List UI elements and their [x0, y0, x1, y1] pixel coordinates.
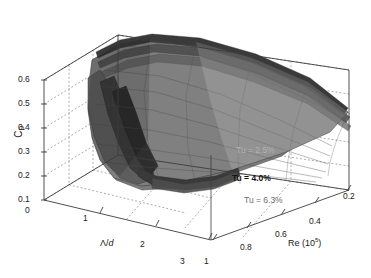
- y-tick-1: 0.8: [240, 243, 252, 252]
- annotation-tu-4-0: Tu = 4.0%: [232, 174, 271, 183]
- z-tick-origin: 0: [25, 206, 30, 215]
- annotation-tu-2-5: Tu = 2.5%: [236, 146, 275, 155]
- z-tick-4: 0.2: [18, 171, 30, 180]
- y-tick-4: 0.2: [343, 192, 355, 201]
- y-tick-2: 0.6: [275, 230, 287, 239]
- z-tick-2: 0.4: [18, 123, 30, 132]
- axis-label-lambda-ital: d: [109, 238, 114, 248]
- annotation-tu-6-3: Tu = 6.3%: [244, 196, 283, 205]
- axis-label-re-tail: ): [318, 238, 321, 248]
- surface-stack: [88, 34, 351, 193]
- z-tick-5: 0.1: [18, 195, 30, 204]
- x-tick-0: 1: [83, 214, 88, 223]
- axis-label-re: Re (105): [288, 237, 321, 248]
- axis-label-lambda-base: Λ/: [100, 238, 109, 248]
- y-tick-3: 0.4: [309, 217, 321, 226]
- axis-label-re-base: Re (10: [288, 238, 315, 248]
- x-tick-2: 3: [180, 257, 185, 266]
- y-tick-0: 1: [204, 257, 209, 266]
- z-tick-1: 0.5: [18, 99, 30, 108]
- axis-label-lambda-d: Λ/d: [100, 239, 114, 248]
- z-tick-0: 0.6: [18, 75, 30, 84]
- figure-3d-surface-plot: CD 0.6 0.5 0.4 0.3 0.2 0.1 0 1 2 3 Λ/d 1…: [0, 0, 371, 278]
- x-tick-1: 2: [140, 240, 145, 249]
- z-tick-3: 0.3: [18, 147, 30, 156]
